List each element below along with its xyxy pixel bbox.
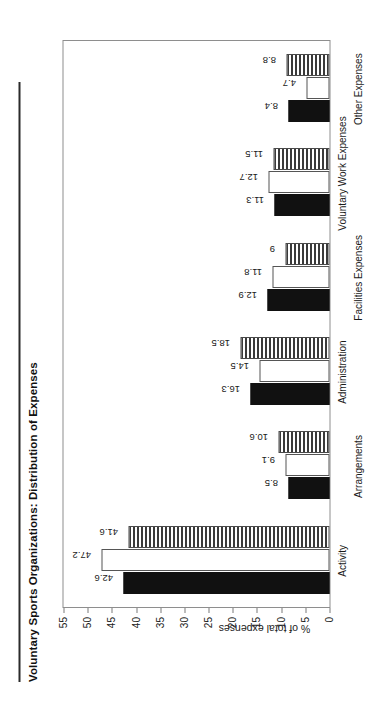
tick-label: 25 bbox=[202, 617, 213, 628]
tick-mark bbox=[232, 608, 233, 613]
bar-value-label: 10.6 bbox=[249, 432, 268, 443]
bar-value-label: 42.6 bbox=[94, 572, 113, 583]
tick-label: 30 bbox=[178, 617, 189, 628]
tick-label: 55 bbox=[57, 617, 68, 628]
bar: 8.8 bbox=[286, 54, 329, 76]
tick-mark bbox=[329, 608, 330, 613]
tick-label: 0 bbox=[323, 617, 334, 623]
bar-value-label: 41.6 bbox=[99, 526, 118, 537]
bar-group: 12.911.89 bbox=[63, 243, 329, 311]
bar-value-label: 8.5 bbox=[264, 478, 277, 489]
tick-label: 20 bbox=[226, 617, 237, 628]
tick-label: 10 bbox=[275, 617, 286, 628]
bar: 12.9 bbox=[267, 289, 329, 311]
bar-group: 8.59.110.6 bbox=[63, 432, 329, 500]
bar-group: 11.312.711.5 bbox=[63, 149, 329, 217]
tick-mark bbox=[111, 608, 112, 613]
category-label: Other Expenses bbox=[352, 42, 363, 136]
category-label: Voluntary Work Expenses bbox=[336, 136, 347, 230]
bar-group: 8.44.78.8 bbox=[63, 54, 329, 122]
bar: 9 bbox=[285, 243, 329, 265]
tick-label: 5 bbox=[299, 617, 310, 623]
bar-value-label: 11.5 bbox=[245, 149, 263, 160]
bar: 11.5 bbox=[273, 149, 329, 171]
tick-mark bbox=[63, 608, 64, 613]
plot-area: 42.647.241.68.59.110.616.314.518.512.911… bbox=[62, 40, 330, 608]
tick-label: 50 bbox=[81, 617, 92, 628]
bar: 42.6 bbox=[123, 572, 329, 594]
tick-label: 35 bbox=[154, 617, 165, 628]
tick-mark bbox=[305, 608, 306, 613]
bar-value-label: 11.8 bbox=[244, 266, 262, 277]
bar-value-label: 12.7 bbox=[239, 172, 258, 183]
bar: 8.5 bbox=[288, 478, 329, 500]
bar: 14.5 bbox=[259, 360, 329, 382]
bar: 10.6 bbox=[278, 432, 329, 454]
bar: 11.8 bbox=[272, 266, 329, 288]
tick-mark bbox=[208, 608, 209, 613]
bar-value-label: 9 bbox=[270, 243, 275, 254]
bars-layer: 42.647.241.68.59.110.616.314.518.512.911… bbox=[63, 41, 329, 607]
category-label: Activity bbox=[336, 514, 347, 608]
bar-value-label: 4.7 bbox=[283, 78, 296, 89]
bar: 4.7 bbox=[306, 77, 329, 99]
bar-value-label: 16.3 bbox=[221, 384, 240, 395]
tick-label: 15 bbox=[250, 617, 261, 628]
category-label: Administration bbox=[336, 325, 347, 419]
category-label: Facilities Expenses bbox=[352, 231, 363, 325]
bar: 18.5 bbox=[240, 337, 329, 359]
category-label: Arrangements bbox=[352, 419, 363, 513]
bar-value-label: 8.4 bbox=[265, 101, 278, 112]
tick-mark bbox=[281, 608, 282, 613]
bar-group: 16.314.518.5 bbox=[63, 337, 329, 405]
y-axis: % of total expenses 05101520253035404550… bbox=[62, 608, 330, 642]
tick-label: 45 bbox=[105, 617, 116, 628]
tick-mark bbox=[136, 608, 137, 613]
bar: 12.7 bbox=[268, 172, 329, 194]
bar-value-label: 47.2 bbox=[72, 549, 91, 560]
bar: 47.2 bbox=[101, 549, 329, 571]
bar: 9.1 bbox=[285, 455, 329, 477]
bar: 8.4 bbox=[288, 100, 329, 122]
bar-value-label: 9.1 bbox=[261, 455, 274, 466]
bar-value-label: 14.5 bbox=[230, 361, 249, 372]
bar: 41.6 bbox=[128, 526, 329, 548]
bar-value-label: 8.8 bbox=[263, 55, 276, 66]
tick-mark bbox=[184, 608, 185, 613]
tick-mark bbox=[87, 608, 88, 613]
tick-label: 40 bbox=[130, 617, 141, 628]
bar-value-label: 11.3 bbox=[246, 195, 264, 206]
bar-group: 42.647.241.6 bbox=[63, 526, 329, 594]
bar-value-label: 18.5 bbox=[211, 338, 230, 349]
header-rule bbox=[18, 82, 20, 682]
bar-value-label: 12.9 bbox=[238, 289, 257, 300]
bar: 16.3 bbox=[250, 383, 329, 405]
tick-mark bbox=[256, 608, 257, 613]
category-axis: ActivityArrangementsAdministrationFacili… bbox=[332, 40, 384, 608]
page-title: Voluntary Sports Organizations: Distribu… bbox=[26, 362, 38, 682]
bar: 11.3 bbox=[274, 195, 329, 217]
document-page: Voluntary Sports Organizations: Distribu… bbox=[0, 0, 385, 704]
tick-mark bbox=[160, 608, 161, 613]
